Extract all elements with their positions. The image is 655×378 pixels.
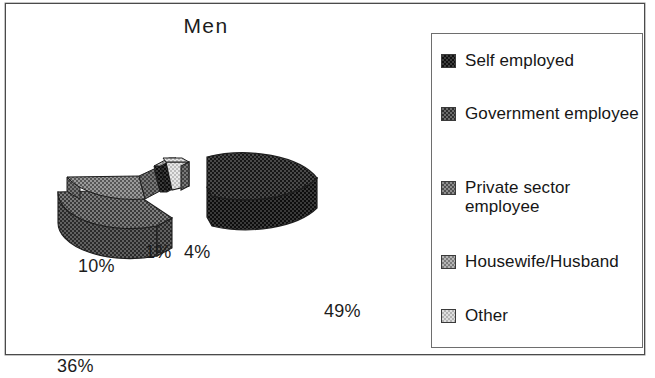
data-label-private-sector: 10% xyxy=(78,256,115,277)
data-label-self-employed: 49% xyxy=(324,301,361,322)
legend-item-housewife[interactable]: Housewife/Husband xyxy=(441,252,619,271)
chart-title: Men xyxy=(6,14,406,38)
data-label-government: 36% xyxy=(57,356,94,377)
legend-swatch-self-employed-icon xyxy=(441,54,456,68)
data-label-other: 4% xyxy=(184,242,210,263)
data-label-housewife: 1% xyxy=(145,242,171,263)
legend-swatch-private-sector-icon xyxy=(441,181,456,195)
pie-plot-region: 4% 1% 10% 36% 49% xyxy=(6,114,406,294)
pie-chart: Men xyxy=(6,4,644,354)
legend-label-government: Government employee xyxy=(465,104,639,123)
legend-swatch-government-icon xyxy=(441,107,456,121)
chart-page-frame: Men xyxy=(5,3,645,355)
legend-item-self-employed[interactable]: Self employed xyxy=(441,51,574,70)
legend-swatch-housewife-icon xyxy=(441,255,456,269)
legend-item-government[interactable]: Government employee xyxy=(441,104,639,123)
legend-swatch-other-icon xyxy=(441,309,456,323)
legend-label-other: Other xyxy=(465,306,508,325)
legend-label-private-sector: Private sector employee xyxy=(465,178,642,216)
legend-item-private-sector[interactable]: Private sector employee xyxy=(441,178,642,216)
pie-svg xyxy=(6,114,406,294)
chart-legend: Self employed Government employee Privat… xyxy=(431,33,643,348)
legend-item-other[interactable]: Other xyxy=(441,306,508,325)
legend-label-housewife: Housewife/Husband xyxy=(465,252,619,271)
pie-slice-self-employed xyxy=(207,153,317,230)
legend-label-self-employed: Self employed xyxy=(465,51,574,70)
